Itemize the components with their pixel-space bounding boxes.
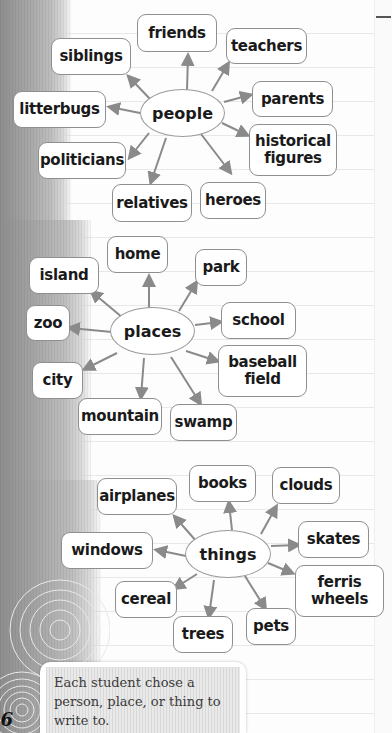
node-label: wheels bbox=[311, 591, 368, 608]
node-home: home bbox=[107, 236, 168, 273]
node-label: swamp bbox=[175, 414, 233, 431]
node-siblings: siblings bbox=[51, 38, 131, 75]
node-cereal: cereal bbox=[115, 581, 177, 618]
node-windows: windows bbox=[61, 532, 153, 569]
node-label: clouds bbox=[280, 477, 333, 494]
node-relatives: relatives bbox=[112, 184, 192, 222]
page-number-text: 16 bbox=[0, 709, 13, 730]
node-label: home bbox=[115, 246, 161, 263]
node-ferris-wheels: ferriswheels bbox=[295, 565, 384, 617]
node-heroes: heroes bbox=[200, 182, 266, 219]
node-mountain: mountain bbox=[78, 398, 162, 435]
node-trees: trees bbox=[173, 616, 233, 653]
node-label: parents bbox=[261, 91, 324, 108]
node-label: windows bbox=[71, 542, 142, 559]
node-pets: pets bbox=[246, 608, 296, 645]
hub-things: things bbox=[185, 530, 271, 578]
node-label: trees bbox=[182, 626, 224, 643]
node-label: island bbox=[40, 267, 89, 284]
node-label: baseball bbox=[228, 354, 297, 371]
node-label: school bbox=[232, 312, 284, 329]
node-label: field bbox=[244, 371, 280, 388]
hub-label: things bbox=[200, 545, 257, 564]
node-label: heroes bbox=[205, 192, 261, 209]
node-airplanes: airplanes bbox=[97, 478, 177, 515]
node-label: zoo bbox=[34, 315, 62, 332]
node-school: school bbox=[221, 302, 296, 339]
hub-label: people bbox=[152, 104, 213, 123]
node-label: skates bbox=[307, 531, 361, 548]
caption-text: Each student chose a person, place, or t… bbox=[46, 667, 240, 733]
node-label: relatives bbox=[116, 195, 187, 212]
node-park: park bbox=[195, 249, 247, 286]
node-city: city bbox=[32, 362, 83, 399]
page-number: 16 bbox=[0, 709, 25, 730]
node-label: siblings bbox=[59, 48, 122, 65]
node-label: city bbox=[43, 372, 73, 389]
node-label: ferris bbox=[318, 574, 362, 591]
caption-box: Each student chose a person, place, or t… bbox=[40, 662, 246, 733]
node-parents: parents bbox=[252, 81, 333, 117]
node-zoo: zoo bbox=[26, 305, 70, 341]
hub-people: people bbox=[140, 89, 225, 137]
node-baseball-field: baseballfield bbox=[218, 345, 307, 397]
node-label: friends bbox=[148, 25, 205, 42]
node-friends: friends bbox=[137, 14, 217, 52]
node-label: litterbugs bbox=[19, 101, 99, 118]
node-politicians: politicians bbox=[38, 142, 126, 179]
node-island: island bbox=[29, 257, 99, 294]
node-litterbugs: litterbugs bbox=[13, 91, 106, 128]
node-label: books bbox=[198, 475, 247, 492]
node-label: teachers bbox=[231, 38, 302, 55]
node-label: park bbox=[202, 259, 239, 276]
node-label: cereal bbox=[121, 591, 171, 608]
node-label: figures bbox=[264, 150, 321, 167]
node-teachers: teachers bbox=[226, 28, 307, 64]
hub-places: places bbox=[110, 307, 195, 355]
node-clouds: clouds bbox=[272, 467, 340, 504]
node-label: airplanes bbox=[99, 488, 175, 505]
node-books: books bbox=[189, 465, 256, 502]
node-historical-figures: historicalfigures bbox=[249, 124, 337, 176]
node-label: historical bbox=[255, 133, 331, 150]
node-label: pets bbox=[253, 618, 289, 635]
node-swamp: swamp bbox=[170, 404, 237, 441]
node-label: mountain bbox=[81, 408, 159, 425]
hub-label: places bbox=[124, 322, 182, 341]
node-label: politicians bbox=[40, 152, 124, 169]
node-skates: skates bbox=[298, 521, 369, 558]
